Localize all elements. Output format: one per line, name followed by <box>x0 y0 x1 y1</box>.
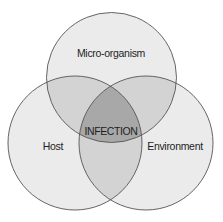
infection-label: INFECTION <box>85 125 138 137</box>
environment-label: Environment <box>147 140 203 152</box>
venn-diagram: Micro-organism Host Environment INFECTIO… <box>0 0 223 222</box>
host-label: Host <box>43 140 64 152</box>
micro-organism-label: Micro-organism <box>77 47 146 59</box>
